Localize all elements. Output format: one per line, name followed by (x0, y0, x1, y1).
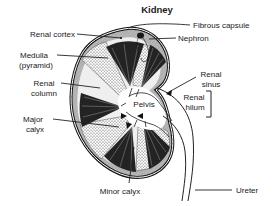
label-renal-column-line1: Renal (34, 79, 55, 88)
cortex-pointer-dot (120, 37, 122, 39)
label-medulla-line2: (pyramid) (19, 61, 53, 70)
label-nephron: Nephron (178, 34, 209, 43)
renal-hilum-bracket (206, 91, 211, 117)
figure-title: Kidney (141, 4, 173, 15)
label-ureter: Ureter (236, 186, 259, 195)
kidney-anatomy-figure: Kidney Fibrous capsule Nephron Renal cor… (0, 0, 274, 206)
label-major-calyx-line1: Major (23, 115, 43, 124)
kidney-diagram: Kidney Fibrous capsule Nephron Renal cor… (0, 0, 274, 206)
kidney-body (71, 28, 173, 177)
label-renal-cortex: Renal cortex (30, 30, 75, 39)
label-medulla-line1: Medulla (20, 51, 49, 60)
label-minor-calyx: Minor calyx (100, 187, 140, 196)
label-renal-sinus-line1: Renal (201, 70, 222, 79)
label-pelvis: Pelvis (133, 100, 154, 109)
label-renal-hilum-line2: hilum (185, 103, 204, 112)
label-major-calyx-line2: calyx (26, 125, 44, 134)
label-renal-sinus-line2: sinus (202, 80, 221, 89)
label-fibrous-capsule: Fibrous capsule (193, 21, 250, 30)
label-renal-column-line2: column (31, 89, 57, 98)
label-renal-hilum-line1: Renal (184, 93, 205, 102)
